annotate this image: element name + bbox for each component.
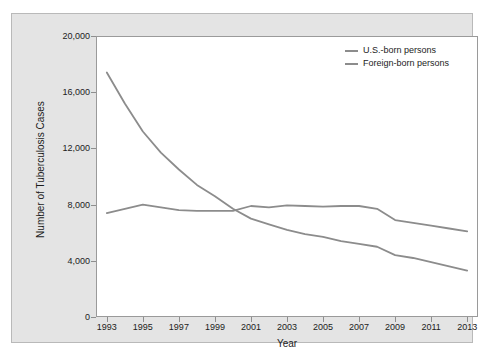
x-axis-tick-mark [107, 317, 108, 322]
chart-legend: U.S.-born personsForeign-born persons [345, 44, 449, 70]
y-axis-title: Number of Tuberculosis Cases [35, 80, 46, 260]
x-axis-tick-label: 2001 [231, 322, 271, 332]
x-axis-tick-label: 2011 [411, 322, 451, 332]
chart-figure: 04,0008,00012,00016,00020,000 1993199519… [0, 0, 485, 360]
y-axis-tick-label: 8,000 [67, 200, 90, 210]
x-axis-tick-label: 2013 [447, 322, 485, 332]
x-axis-tick-mark [359, 317, 360, 322]
x-axis-tick-mark [323, 317, 324, 322]
x-axis-tick-mark [251, 317, 252, 322]
chart-panel: 04,0008,00012,00016,00020,000 1993199519… [11, 13, 473, 343]
x-axis-tick-label: 1993 [87, 322, 127, 332]
plot-lines [96, 36, 478, 317]
legend-item: U.S.-born persons [345, 44, 449, 57]
y-axis-tick-mark [91, 148, 96, 149]
x-axis-tick-mark [179, 317, 180, 322]
y-axis-tick-mark [91, 317, 96, 318]
x-axis-tick-mark [431, 317, 432, 322]
y-axis-tick-label: 0 [85, 312, 90, 322]
y-axis-tick-label: 4,000 [67, 256, 90, 266]
x-axis-tick-mark [143, 317, 144, 322]
x-axis-tick-label: 1997 [159, 322, 199, 332]
series-line [107, 73, 467, 271]
x-axis-tick-label: 2009 [375, 322, 415, 332]
x-axis-tick-label: 2003 [267, 322, 307, 332]
x-axis-tick-label: 1999 [195, 322, 235, 332]
x-axis-tick-label: 2007 [339, 322, 379, 332]
y-axis-tick-mark [91, 261, 96, 262]
y-axis-tick-mark [91, 92, 96, 93]
legend-label: U.S.-born persons [363, 45, 436, 56]
y-axis-tick-mark [91, 205, 96, 206]
legend-item: Foreign-born persons [345, 57, 449, 70]
x-axis-tick-mark [467, 317, 468, 322]
y-axis-tick-mark [91, 36, 96, 37]
x-axis-tick-mark [395, 317, 396, 322]
y-axis-tick-label: 16,000 [62, 87, 90, 97]
series-line [107, 205, 467, 232]
legend-label: Foreign-born persons [363, 58, 449, 69]
x-axis-tick-mark [287, 317, 288, 322]
x-axis-title: Year [96, 338, 478, 349]
y-axis-tick-label: 12,000 [62, 143, 90, 153]
legend-line-swatch [345, 50, 358, 52]
y-axis-tick-label: 20,000 [62, 31, 90, 41]
x-axis-tick-label: 1995 [123, 322, 163, 332]
x-axis-tick-label: 2005 [303, 322, 343, 332]
x-axis-tick-mark [215, 317, 216, 322]
legend-line-swatch [345, 63, 358, 65]
